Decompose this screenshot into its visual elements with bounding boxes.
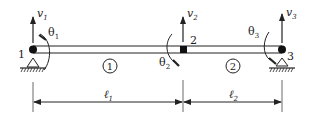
element-1-label: 1: [103, 59, 117, 73]
theta3-arrowhead-icon: [269, 58, 276, 64]
v2-label: v2: [187, 7, 198, 22]
svg-text:2: 2: [230, 61, 236, 72]
theta2-label: θ2: [159, 56, 170, 71]
beam: [33, 46, 282, 53]
node-3-dot: [278, 46, 286, 54]
node-2: 2 v2 θ2: [159, 7, 198, 71]
node-2-square: [180, 46, 187, 53]
v3-label: v3: [286, 6, 297, 21]
length-2-label: ℓ2: [229, 88, 239, 103]
node-1-dot: [29, 46, 37, 54]
v1-label: v1: [37, 7, 48, 22]
svg-text:1: 1: [107, 61, 113, 72]
length-1-label: ℓ1: [104, 88, 113, 103]
node-2-label: 2: [190, 34, 197, 47]
theta3-label: θ3: [248, 25, 259, 40]
theta1-label: θ1: [48, 26, 59, 41]
theta2-arc-icon: [167, 34, 174, 62]
beam-diagram: 1 v1 θ1 2 v2 θ2 3 v3 θ3 1 2: [0, 0, 311, 118]
node-1-label: 1: [18, 48, 25, 61]
node-3: 3 v3 θ3: [248, 6, 297, 72]
dimension-lines: [33, 80, 282, 112]
element-2-label: 2: [226, 59, 240, 73]
node-3-label: 3: [287, 50, 294, 63]
node-1: 1 v1 θ1: [18, 7, 59, 72]
theta2-arrowhead-icon: [173, 60, 179, 66]
